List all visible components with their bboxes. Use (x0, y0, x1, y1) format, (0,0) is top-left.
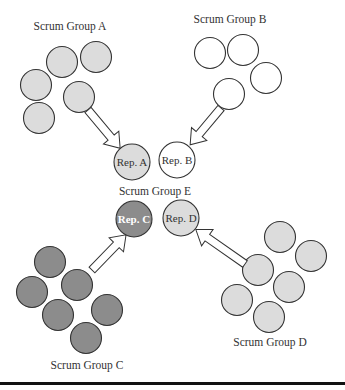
group-b-member (195, 38, 226, 69)
rep-d-label: Rep. D (165, 212, 196, 224)
group-b-member (228, 35, 259, 66)
group-d-member (296, 241, 327, 272)
group-d-member (243, 255, 274, 286)
rep-d: Rep. D (163, 200, 199, 236)
group-a-member (21, 70, 52, 101)
group-a-label: Scrum Group A (34, 20, 108, 33)
group-c-member (62, 270, 93, 301)
group-a-member (47, 47, 78, 78)
group-c-member (17, 277, 48, 308)
rep-a: Rep. A (114, 144, 150, 180)
group-b-member (251, 63, 282, 94)
rep-c: Rep. C (116, 201, 152, 237)
group-a-member (81, 42, 112, 73)
group-c-members (17, 247, 123, 354)
group-b-label: Scrum Group B (194, 13, 267, 26)
group-c-member (92, 295, 123, 326)
arrow-a-icon (80, 104, 127, 155)
group-c-label: Scrum Group C (51, 359, 124, 372)
rep-b-label: Rep. B (162, 154, 193, 166)
group-b-member (214, 79, 245, 110)
group-d-member (254, 302, 285, 333)
rep-b: Rep. B (159, 142, 195, 178)
group-d-label: Scrum Group D (233, 336, 306, 349)
arrow-b-icon (182, 102, 228, 152)
group-a-member (24, 103, 55, 134)
rep-a-label: Rep. A (117, 156, 148, 168)
group-c-member (71, 323, 102, 354)
arrow-d-icon (190, 221, 251, 272)
group-b-members (195, 35, 282, 110)
group-e-label: Scrum Group E (119, 185, 191, 198)
group-c-member (43, 300, 74, 331)
group-d-member (222, 285, 253, 316)
rep-c-label: Rep. C (118, 213, 150, 225)
group-d-members (222, 222, 327, 333)
scrum-of-scrums-diagram: Scrum Group A Scrum Group B Scrum Group … (0, 0, 345, 390)
group-d-member (274, 272, 305, 303)
group-c-member (35, 247, 66, 278)
bottom-rule (0, 382, 345, 385)
group-d-member (265, 222, 296, 253)
